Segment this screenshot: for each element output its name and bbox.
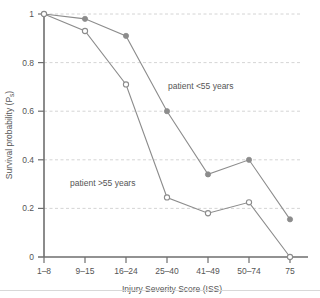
- y-tick-label-0: 0: [29, 252, 34, 262]
- data-point: [123, 82, 128, 87]
- y-tick-label-0-4: 0.4: [22, 155, 34, 165]
- y-tick-label-0-2: 0.2: [22, 203, 34, 213]
- survival-probability-line-chart: 1 0.8 0.6 0.4 0.2 0 1–8 9–15 16–24 25–40…: [0, 0, 320, 298]
- annotation-patient-under-55: patient <55 years: [168, 81, 233, 91]
- x-axis-title: Injury Severity Score (ISS): [122, 284, 222, 294]
- data-point: [246, 157, 251, 162]
- data-point: [287, 217, 292, 222]
- data-point: [246, 200, 251, 205]
- x-tick-label-0: 1–8: [37, 266, 51, 276]
- y-tick-label-0-6: 0.6: [22, 106, 34, 116]
- chart-background: [0, 0, 320, 298]
- x-tick-label-2: 16–24: [114, 266, 138, 276]
- y-axis-title: Survival probability (Ps): [4, 91, 15, 179]
- data-point: [205, 211, 210, 216]
- annotation-patient-over-55: patient >55 years: [70, 178, 135, 188]
- x-tick-label-6: 75: [285, 266, 295, 276]
- svg-text:Survival probability (Ps): Survival probability (Ps): [4, 91, 15, 179]
- chart-figure: 1 0.8 0.6 0.4 0.2 0 1–8 9–15 16–24 25–40…: [0, 0, 320, 298]
- x-tick-label-4: 41–49: [196, 266, 220, 276]
- data-point: [41, 11, 46, 16]
- data-point: [164, 195, 169, 200]
- x-axis-tick-labels: 1–8 9–15 16–24 25–40 41–49 50–74 75: [37, 266, 295, 276]
- data-point: [205, 172, 210, 177]
- data-point: [82, 28, 87, 33]
- x-tick-label-1: 9–15: [76, 266, 95, 276]
- y-tick-label-1: 1: [29, 9, 34, 19]
- y-tick-label-0-8: 0.8: [22, 58, 34, 68]
- data-point: [164, 109, 169, 114]
- y-axis-title-close: ): [4, 91, 14, 94]
- y-axis-title-main: Survival probability (P: [4, 97, 14, 180]
- data-point: [287, 254, 292, 259]
- x-tick-label-5: 50–74: [237, 266, 261, 276]
- data-point: [82, 16, 87, 21]
- data-point: [123, 33, 128, 38]
- x-tick-label-3: 25–40: [155, 266, 179, 276]
